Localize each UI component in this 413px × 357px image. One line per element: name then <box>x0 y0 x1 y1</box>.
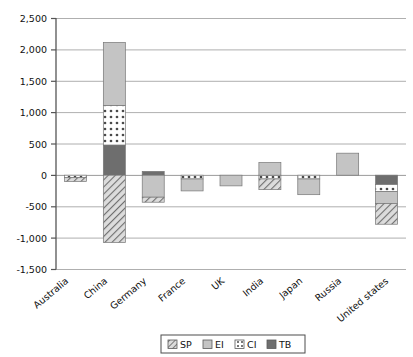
legend-swatch-ci <box>235 340 244 349</box>
bar-segment-ci <box>103 105 125 145</box>
legend-label-tb: TB <box>278 339 291 350</box>
bar-segment-sp <box>376 203 398 224</box>
bar-segment-ei <box>142 175 164 197</box>
bar-segment-tb <box>142 171 164 175</box>
bar-group-japan <box>298 175 320 194</box>
bar-group-germany <box>142 171 164 202</box>
y-tick-label: 2,500 <box>20 13 47 24</box>
bar-group-australia <box>64 175 86 181</box>
bar-segment-sp <box>103 175 125 242</box>
bar-segment-ci <box>376 185 398 192</box>
bar-segment-sp <box>259 179 281 190</box>
legend-label-sp: SP <box>180 339 192 350</box>
bar-segment-ci <box>298 175 320 179</box>
y-tick-label: 1,500 <box>20 76 47 87</box>
chart-legend: SP EI CI TB <box>161 335 305 353</box>
category-label-china: China <box>81 275 109 301</box>
category-label-india: India <box>240 275 265 298</box>
legend-swatch-ei <box>203 340 212 349</box>
bar-segment-ci <box>259 175 281 179</box>
y-axis-ticks <box>51 19 56 270</box>
y-tick-label: 0 <box>41 170 47 181</box>
x-axis-category-labels: Australia China Germany France UK India … <box>31 275 390 325</box>
bar-group-china <box>103 43 125 243</box>
category-label-france: France <box>156 275 187 304</box>
y-axis-tick-labels: 2,500 2,000 1,500 1,000 500 0 -500 -1,00… <box>16 13 47 275</box>
bar-group-united-states <box>376 175 398 224</box>
legend-swatch-tb <box>267 340 276 349</box>
legend-swatch-sp <box>168 340 177 349</box>
y-tick-label: -1,500 <box>16 264 47 275</box>
bar-segment-sp <box>142 197 164 202</box>
y-tick-label: 2,000 <box>20 44 47 55</box>
bar-segment-tb <box>376 175 398 184</box>
category-label-australia: Australia <box>31 275 70 310</box>
y-tick-label: 1,000 <box>20 107 47 118</box>
y-tick-label: -1,000 <box>16 233 47 244</box>
bar-segment-ei <box>181 179 203 191</box>
y-tick-label: -500 <box>25 201 47 212</box>
category-label-uk: UK <box>209 275 227 292</box>
bar-segment-sp <box>64 178 86 182</box>
bar-group-india <box>259 163 281 190</box>
category-label-russia: Russia <box>313 275 343 303</box>
bar-segment-ei <box>103 43 125 106</box>
bar-segment-ei <box>376 192 398 204</box>
bar-segment-ei <box>220 175 242 186</box>
category-label-japan: Japan <box>276 275 304 301</box>
bar-segment-ei <box>298 179 320 195</box>
legend-label-ei: EI <box>215 339 224 350</box>
stacked-bar-chart: 2,500 2,000 1,500 1,000 500 0 -500 -1,00… <box>0 0 413 357</box>
y-tick-label: 500 <box>29 139 47 150</box>
chart-container: 2,500 2,000 1,500 1,000 500 0 -500 -1,00… <box>0 0 413 357</box>
legend-label-ci: CI <box>247 339 256 350</box>
bar-group-france <box>181 175 203 191</box>
bar-segment-ei <box>337 153 359 175</box>
bar-segment-ei <box>259 163 281 176</box>
bar-group-russia <box>337 153 359 175</box>
bar-segment-ci <box>64 175 86 178</box>
bar-segment-tb <box>103 145 125 175</box>
bar-segment-ci <box>181 175 203 179</box>
bar-group-uk <box>220 175 242 186</box>
category-label-germany: Germany <box>108 275 149 312</box>
category-label-united-states: United states <box>335 275 391 324</box>
